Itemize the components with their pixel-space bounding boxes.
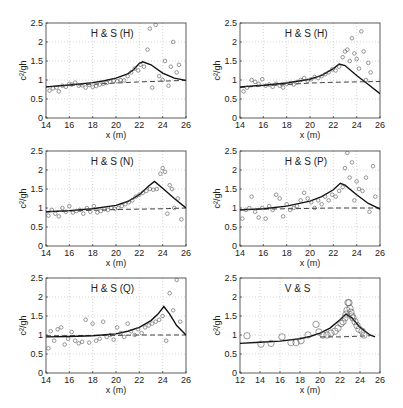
data-point [334,69,338,73]
subplot-6: 121416182022242600.511.522.5x (m)c²/ghV … [212,273,385,395]
data-point [57,90,61,94]
x-axis-label: x (m) [106,130,127,140]
y-tick-label: 2.5 [30,146,43,156]
data-point [103,207,107,211]
x-tick-label: 16 [258,120,268,130]
x-tick-label: 18 [282,120,292,130]
subplot-title: H & S (Q) [91,283,134,294]
x-tick-label: 26 [375,248,385,258]
data-point [52,339,56,343]
y-tick-label: 2 [232,165,237,175]
y-tick-label: 1 [38,330,43,340]
data-point [369,71,373,75]
x-tick-label: 20 [305,120,315,130]
y-tick-label: 0 [232,113,237,123]
x-tick-label: 24 [158,120,168,130]
data-point [374,195,378,199]
data-point [47,214,51,218]
data-point [371,164,375,168]
data-point [84,86,88,90]
data-point [142,65,146,69]
x-tick-label: 22 [134,248,144,258]
data-point [70,330,74,334]
y-tick-label: 2.5 [224,146,237,156]
data-point [353,199,357,203]
data-point [299,199,303,203]
y-tick-label: 1.5 [30,56,43,66]
data-point [122,79,126,83]
data-point [350,36,354,40]
x-tick-label: 18 [295,375,305,385]
data-point [253,210,257,214]
data-point [364,176,368,180]
data-point [250,195,254,199]
data-point [302,191,306,195]
data-point [120,204,124,208]
data-point [241,217,245,221]
data-point [167,84,171,88]
y-tick-label: 1.5 [30,184,43,194]
data-point [367,61,371,65]
data-point [306,197,310,201]
data-point [122,335,126,339]
data-point [56,328,60,332]
data-point [353,52,357,56]
data-point [278,84,282,88]
data-point [334,195,338,199]
y-tick-label: 1 [232,75,237,85]
x-tick-label: 20 [305,248,315,258]
data-point [302,76,306,80]
x-tick-label: 26 [181,375,191,385]
y-tick-label: 0.5 [30,349,43,359]
data-point [244,333,250,339]
data-point [115,326,119,330]
y-tick-label: 0 [232,368,237,378]
data-point [164,339,168,343]
x-tick-label: 26 [181,120,191,130]
subplot-2: 1416182022242600.511.522.5x (m)c²/ghH & … [212,18,385,140]
reference-dashed-line [320,336,370,337]
y-tick-label: 0 [38,368,43,378]
data-point [281,215,285,219]
y-tick-label: 0.5 [30,222,43,232]
data-point [346,48,350,52]
data-point [177,63,181,67]
y-tick-label: 2.5 [30,18,43,28]
data-point [295,204,299,208]
y-tick-label: 2 [38,37,43,47]
data-point [343,166,347,170]
data-point [84,318,88,322]
data-point [313,321,319,327]
x-axis-label: x (m) [106,258,127,268]
y-tick-label: 1.5 [30,311,43,321]
y-axis-label: c²/gh [18,188,28,208]
x-tick-label: 20 [315,375,325,385]
data-point [320,202,324,206]
x-tick-label: 22 [328,120,338,130]
data-point [175,71,179,75]
x-tick-label: 22 [134,375,144,385]
data-point [112,79,116,83]
data-point [281,86,285,90]
data-point [357,67,361,71]
y-axis-label: c²/gh [18,315,28,335]
y-tick-label: 1 [38,203,43,213]
data-point [157,74,161,78]
data-point [140,331,144,335]
data-point [47,347,51,351]
data-point [94,339,98,343]
data-point [68,204,72,208]
data-point [253,80,257,84]
data-point [163,170,167,174]
data-point [146,48,150,52]
subplot-title: H & S (N) [91,156,134,167]
x-tick-label: 16 [275,375,285,385]
data-point [346,151,350,155]
subplot-title: H & S (H) [285,28,328,39]
data-point [343,50,347,54]
x-tick-label: 24 [158,375,168,385]
data-point [126,74,130,78]
data-point [264,217,268,221]
y-tick-label: 0 [232,241,237,251]
data-point [87,341,91,345]
